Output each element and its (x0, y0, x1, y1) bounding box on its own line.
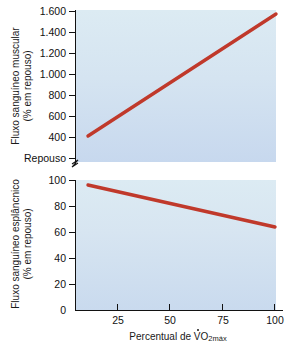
bottom-chart-y-axis-title-line1: Fluxo sanguíneo esplâncnico (10, 179, 21, 309)
bottom-chart-y-tick (69, 258, 76, 259)
bottom-chart-y-axis-title: Fluxo sanguíneo esplâncnico (% em repous… (10, 178, 33, 310)
top-chart-y-tick (69, 11, 76, 12)
top-chart-y-tick (69, 158, 76, 159)
top-chart-y-tick (69, 32, 76, 33)
bottom-chart-y-axis (75, 180, 76, 311)
bottom-chart-x-axis-title: Percentual de VO2máx (78, 331, 278, 345)
top-chart-y-tick (69, 74, 76, 75)
bottom-chart-x-tick-label: 25 (98, 314, 138, 326)
bottom-chart-x-axis (75, 310, 283, 311)
bottom-chart-y-axis-title-line2: (% em repouso) (22, 208, 33, 279)
bottom-chart-x-tick (274, 304, 275, 311)
top-chart-y-axis-title-line1: Fluxo sanguíneo muscular (10, 27, 21, 144)
top-chart-y-tick (69, 137, 76, 138)
top-chart-y-tick (69, 116, 76, 117)
bottom-chart-y-tick (69, 180, 76, 181)
top-chart-y-tick (69, 53, 76, 54)
top-chart-y-axis-title-line2: (% em repouso) (22, 50, 33, 121)
bottom-chart-y-tick (69, 206, 76, 207)
x-axis-title-subscript: 2máx (208, 334, 226, 343)
top-chart-y-axis-title: Fluxo sanguíneo muscular (% em repouso) (10, 10, 33, 162)
bottom-chart-x-tick-label: 50 (150, 314, 190, 326)
x-axis-title-prefix: Percentual de (129, 331, 194, 342)
bottom-chart-x-tick (169, 304, 170, 311)
bottom-chart-x-tick-label: 75 (203, 314, 243, 326)
figure-container: 1.600 1.400 1.200 1.000 800 600 400 Repo… (0, 0, 292, 351)
bottom-chart-y-tick (69, 232, 76, 233)
top-chart-y-tick (69, 95, 76, 96)
x-axis-title-vdot: V (194, 331, 201, 342)
bottom-chart-plot-area (76, 180, 276, 310)
bottom-chart-x-tick (222, 304, 223, 311)
bottom-chart-y-tick (69, 284, 76, 285)
bottom-chart-x-tick (117, 304, 118, 311)
bottom-chart-x-tick-label: 100 (255, 314, 292, 326)
top-chart-plot-area (76, 10, 276, 162)
